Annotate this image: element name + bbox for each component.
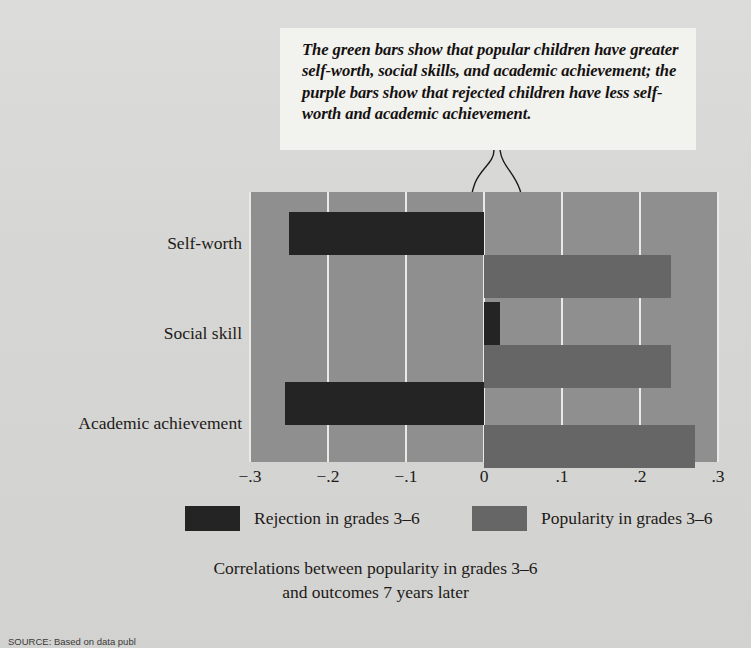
x-tick-label: .1 [532,466,592,487]
x-tick-label: −.2 [298,466,358,487]
y-category-label: Academic achievement [12,413,242,434]
legend-swatch-popularity-icon [472,506,527,531]
x-tick-label: .3 [688,466,748,487]
plot-panel [250,192,718,462]
legend-item-popularity: Popularity in grades 3–6 [472,503,713,533]
callout-text: The green bars show that popular childre… [302,39,684,124]
gridline [561,192,563,462]
gridline [639,192,641,462]
bar-rejection-social-skill [484,302,500,345]
chart-caption: Correlations between popularity in grade… [0,556,751,604]
gridline [249,192,251,462]
callout-box: The green bars show that popular childre… [280,28,696,150]
legend-swatch-rejection-icon [185,506,240,531]
gridline [717,192,719,462]
y-axis-labels: Self-worth Social skill Academic achieve… [10,192,242,462]
x-tick-label: 0 [454,466,514,487]
y-category-label: Self-worth [12,233,242,254]
bar-popularity-social-skill [484,345,671,388]
y-category-label: Social skill [12,323,242,344]
x-axis: −.3 −.2 −.1 0 .1 .2 .3 [250,466,718,492]
x-tick-label: −.1 [376,466,436,487]
legend-item-rejection: Rejection in grades 3–6 [185,503,420,533]
bar-rejection-academic-achievement [285,382,484,425]
legend-label-popularity: Popularity in grades 3–6 [541,508,713,529]
bar-rejection-self-worth [289,212,484,255]
x-tick-label: −.3 [220,466,280,487]
bar-popularity-self-worth [484,255,671,298]
caption-line-2: and outcomes 7 years later [0,580,751,604]
source-note: SOURCE: Based on data publ [8,636,608,648]
legend-label-rejection: Rejection in grades 3–6 [254,508,420,529]
bar-popularity-academic-achievement [484,425,695,468]
x-tick-label: .2 [610,466,670,487]
legend: Rejection in grades 3–6 Popularity in gr… [0,503,751,535]
caption-line-1: Correlations between popularity in grade… [0,556,751,580]
figure-canvas: The green bars show that popular childre… [0,0,751,648]
